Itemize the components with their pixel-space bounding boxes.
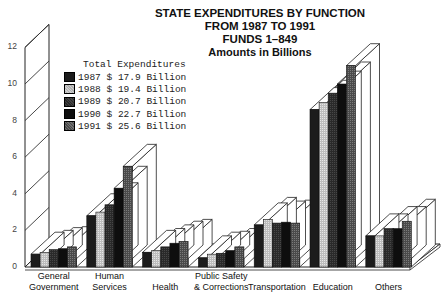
bar-1987: [31, 254, 40, 267]
x-category-label: Others: [349, 282, 429, 293]
bar-1991: [402, 221, 411, 267]
bar-1991: [346, 66, 355, 267]
bar-1989: [161, 247, 170, 267]
legend: Total Expenditures 1987 $ 17.9 Billion19…: [64, 59, 186, 132]
bar-1991: [235, 247, 244, 267]
bar-1987: [366, 236, 375, 267]
bar-1987: [87, 216, 96, 267]
bar-1991: [291, 223, 300, 267]
legend-label: 1987 $ 17.9 Billion: [78, 72, 186, 83]
bar-1987: [310, 110, 319, 267]
bar-1990: [393, 229, 402, 267]
legend-swatch: [64, 121, 75, 131]
legend-label: 1990 $ 22.7 Billion: [78, 109, 186, 120]
y-tick-label: 4: [0, 188, 17, 198]
legend-item-1989: 1989 $ 20.7 Billion: [64, 96, 186, 108]
bar-1989: [49, 250, 58, 267]
legend-item-1988: 1988 $ 19.4 Billion: [64, 83, 186, 95]
y-tick-label: 6: [0, 151, 17, 161]
legend-swatch: [64, 84, 75, 94]
bar-1990: [114, 188, 123, 267]
legend-swatch: [64, 72, 75, 82]
legend-label: 1991 $ 25.6 Billion: [78, 121, 186, 132]
legend-swatch: [64, 109, 75, 119]
bar-1989: [328, 93, 337, 267]
bar-1990: [170, 243, 179, 267]
bar-1988: [208, 254, 217, 267]
y-tick-label: 0: [0, 261, 17, 271]
y-tick-label: 2: [0, 224, 17, 234]
bar-1989: [105, 205, 114, 267]
bar-chart-plot: [0, 0, 446, 296]
legend-label: 1988 $ 19.4 Billion: [78, 84, 186, 95]
bar-1990: [337, 84, 346, 267]
bar-1988: [96, 212, 105, 267]
y-tick-label: 8: [0, 115, 17, 125]
legend-item-1990: 1990 $ 22.7 Billion: [64, 108, 186, 120]
bar-1991: [179, 241, 188, 267]
bar-1987: [254, 225, 263, 267]
bar-1989: [384, 229, 393, 267]
bar-1990: [226, 251, 235, 267]
legend-label: 1989 $ 20.7 Billion: [78, 96, 186, 107]
bar-1988: [263, 219, 272, 267]
legend-swatch: [64, 97, 75, 107]
legend-item-1991: 1991 $ 25.6 Billion: [64, 120, 186, 132]
bar-1987: [198, 258, 207, 267]
bar-1990: [58, 249, 67, 267]
legend-item-1987: 1987 $ 17.9 Billion: [64, 71, 186, 83]
bar-1989: [217, 253, 226, 267]
bar-1991: [67, 247, 76, 267]
bar-1988: [375, 236, 384, 267]
y-tick-label: 10: [0, 78, 17, 88]
bar-1991: [123, 166, 132, 267]
bar-1988: [152, 251, 161, 267]
bar-1988: [319, 102, 328, 267]
bar-1989: [272, 223, 281, 267]
y-tick-label: 12: [0, 41, 17, 51]
bar-1990: [282, 222, 291, 267]
bar-1987: [143, 252, 152, 267]
legend-title: Total Expenditures: [83, 59, 186, 71]
bar-1988: [40, 252, 49, 267]
